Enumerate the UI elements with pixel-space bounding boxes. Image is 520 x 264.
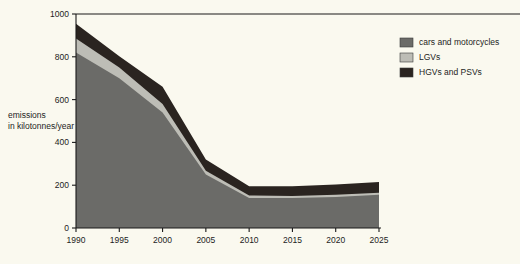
- legend-swatch-1: [400, 38, 413, 47]
- y-tick-label: 200: [55, 180, 69, 190]
- x-tick-label: 2000: [153, 235, 172, 245]
- y-tick-label: 400: [55, 137, 69, 147]
- x-tick-label: 1990: [67, 235, 86, 245]
- x-tick-label: 2010: [240, 235, 259, 245]
- y-axis-title-line2: in kilotonnes/year: [8, 121, 74, 131]
- legend-label-2: LGVs: [419, 52, 440, 62]
- legend-label-3: HGVs and PSVs: [419, 67, 482, 77]
- emissions-area-chart: 02004006008001000 1990199520002005201020…: [0, 0, 520, 264]
- x-tick-label: 2015: [283, 235, 302, 245]
- legend-label-1: cars and motorcycles: [419, 37, 499, 47]
- legend-swatch-2: [400, 53, 413, 62]
- x-tick-label: 2005: [196, 235, 215, 245]
- legend-swatch-3: [400, 68, 413, 77]
- y-tick-label: 600: [55, 95, 69, 105]
- y-tick-label: 800: [55, 52, 69, 62]
- x-tick-label: 2025: [370, 235, 389, 245]
- chart-canvas: 02004006008001000 1990199520002005201020…: [0, 0, 520, 264]
- y-tick-label: 0: [64, 223, 69, 233]
- y-axis-title-line1: emissions: [8, 110, 46, 120]
- x-tick-label: 1995: [110, 235, 129, 245]
- x-tick-label: 2020: [326, 235, 345, 245]
- y-tick-label: 1000: [50, 9, 69, 19]
